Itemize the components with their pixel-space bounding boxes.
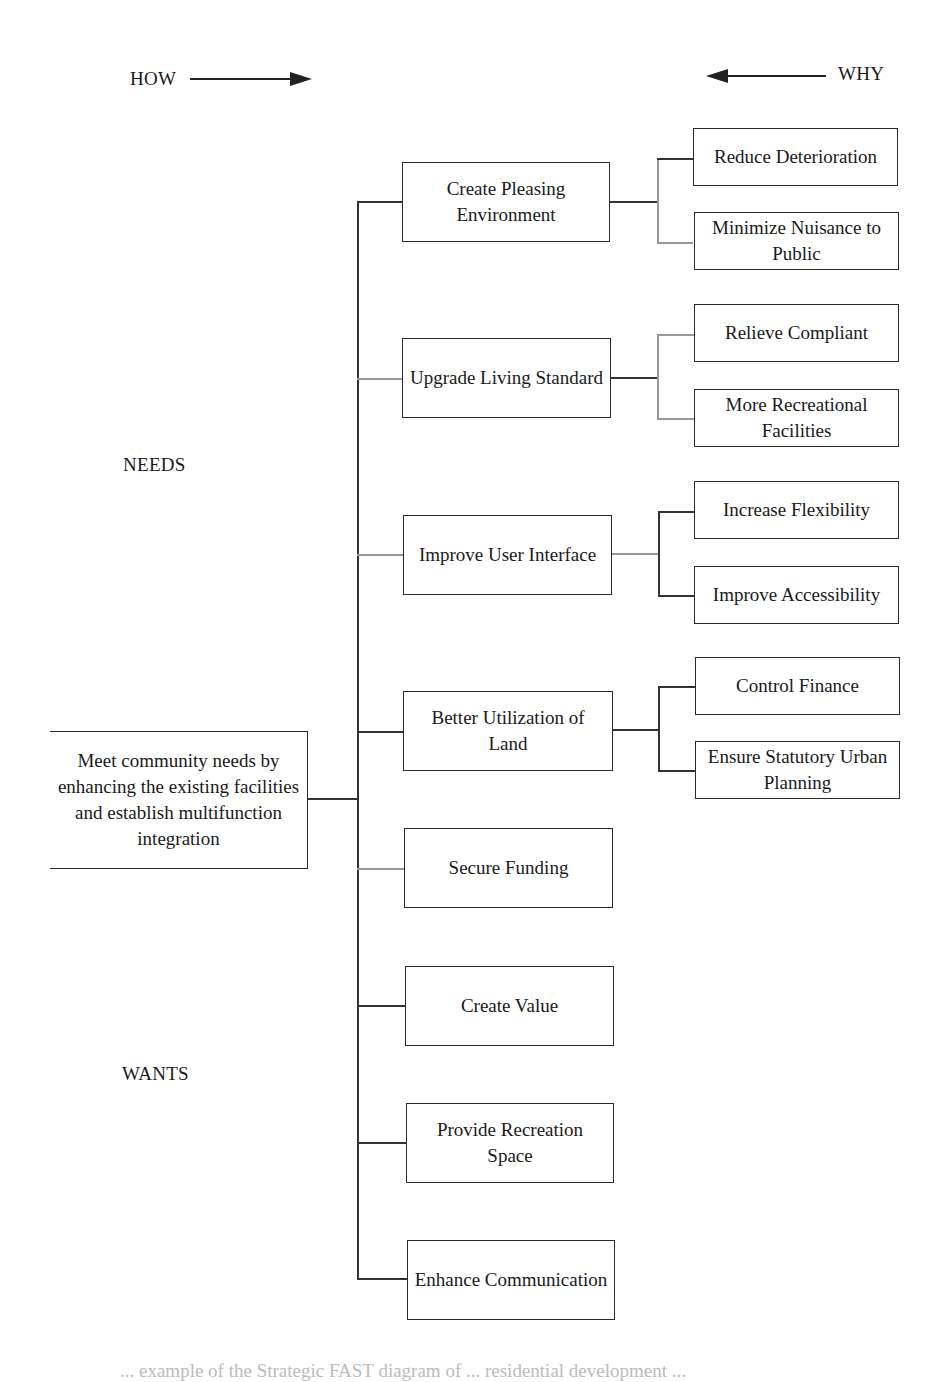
function-label: Create Pleasing Environment [409, 176, 603, 228]
connector [657, 158, 659, 242]
function-box-better-utilization-of-land: Better Utilization of Land [403, 691, 613, 771]
subfunction-label: Ensure Statutory Urban Planning [702, 744, 893, 796]
wants-label: WANTS [122, 1063, 189, 1085]
connector [658, 686, 660, 771]
function-box-improve-user-interface: Improve User Interface [403, 515, 612, 595]
connector [357, 201, 402, 203]
why-arrow-icon [706, 69, 826, 83]
connector [613, 729, 659, 731]
root-connector [308, 798, 358, 800]
subfunction-label: Reduce Deterioration [714, 144, 877, 170]
connector [357, 1142, 406, 1144]
connector [357, 378, 402, 380]
connector [658, 686, 695, 688]
function-box-upgrade-living-standard: Upgrade Living Standard [402, 338, 611, 418]
connector [658, 595, 695, 597]
connector [658, 511, 695, 513]
subfunction-label: Increase Flexibility [723, 497, 870, 523]
function-box-secure-funding: Secure Funding [404, 828, 613, 908]
connector [357, 731, 403, 733]
subfunction-box-relieve-compliant: Relieve Compliant [694, 304, 899, 362]
direction-arrows [0, 0, 949, 120]
subfunction-label: Improve Accessibility [713, 582, 880, 608]
function-label: Secure Funding [449, 855, 569, 881]
connector [657, 334, 694, 336]
function-label: Improve User Interface [419, 542, 596, 568]
connector [612, 553, 659, 555]
connector [357, 1005, 405, 1007]
function-label: Create Value [461, 993, 558, 1019]
function-box-create-pleasing-environment: Create Pleasing Environment [402, 162, 610, 242]
subfunction-label: More Recreational Facilities [701, 392, 892, 444]
connector [657, 418, 694, 420]
function-box-provide-recreation-space: Provide Recreation Space [406, 1103, 614, 1183]
how-arrow-icon [190, 72, 312, 86]
connector [658, 511, 660, 596]
connector [357, 554, 403, 556]
subfunction-box-more-recreational-facilities: More Recreational Facilities [694, 389, 899, 447]
subfunction-label: Control Finance [736, 673, 859, 699]
connector [658, 770, 695, 772]
subfunction-box-ensure-statutory-urban-planning: Ensure Statutory Urban Planning [695, 741, 900, 799]
subfunction-label: Relieve Compliant [725, 320, 868, 346]
subfunction-label: Minimize Nuisance to Public [701, 215, 892, 267]
main-spine [357, 201, 359, 1279]
connector [357, 1278, 407, 1280]
subfunction-box-control-finance: Control Finance [695, 657, 900, 715]
function-label: Provide Recreation Space [413, 1117, 607, 1169]
subfunction-box-increase-flexibility: Increase Flexibility [694, 481, 899, 539]
connector [357, 868, 404, 870]
connector [657, 242, 693, 244]
function-box-create-value: Create Value [405, 966, 614, 1046]
connector [657, 158, 693, 160]
connector [657, 334, 659, 418]
function-label: Better Utilization of Land [410, 705, 606, 757]
function-box-enhance-communication: Enhance Communication [407, 1240, 615, 1320]
root-function-label: Meet community needs by enhancing the ex… [56, 748, 301, 852]
connector [610, 201, 658, 203]
root-function-box: Meet community needs by enhancing the ex… [50, 731, 308, 869]
subfunction-box-reduce-deterioration: Reduce Deterioration [693, 128, 898, 186]
function-label: Enhance Communication [415, 1267, 608, 1293]
connector [611, 377, 658, 379]
function-label: Upgrade Living Standard [410, 365, 603, 391]
needs-label: NEEDS [123, 454, 186, 476]
subfunction-box-minimize-nuisance: Minimize Nuisance to Public [694, 212, 899, 270]
subfunction-box-improve-accessibility: Improve Accessibility [694, 566, 899, 624]
figure-caption: ... example of the Strategic FAST diagra… [120, 1360, 686, 1382]
